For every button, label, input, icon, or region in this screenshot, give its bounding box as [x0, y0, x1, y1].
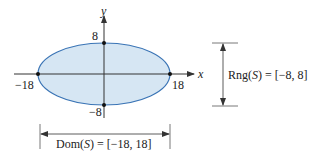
point-left — [36, 72, 40, 76]
ellipse-diagram: x y 8 −8 −18 18 Rng(S) = [−8, 8] Dom(S) … — [0, 0, 324, 158]
tick-label-right: 18 — [172, 78, 184, 92]
point-right — [168, 72, 172, 76]
y-axis-label: y — [100, 4, 107, 18]
range-label: Rng(S) = [−8, 8] — [228, 68, 308, 82]
x-axis-label: x — [197, 67, 204, 81]
tick-label-left: −18 — [15, 78, 34, 92]
point-top — [102, 41, 106, 45]
point-bottom — [102, 103, 106, 107]
tick-label-top: 8 — [92, 29, 98, 43]
tick-label-bottom: −8 — [89, 105, 102, 119]
domain-label: Dom(S) = [−18, 18] — [56, 137, 152, 151]
